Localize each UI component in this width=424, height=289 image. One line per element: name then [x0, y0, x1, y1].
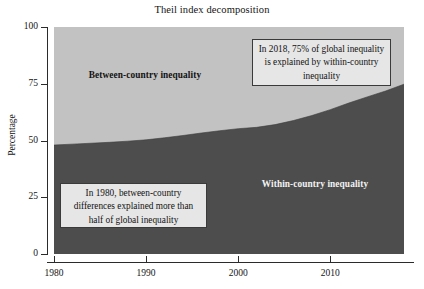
y-tick-mark	[41, 197, 48, 198]
x-tick-label: 2010	[300, 268, 360, 278]
y-tick-label: 100	[0, 21, 38, 31]
chart-title: Theil index decomposition	[0, 4, 424, 15]
x-tick-label: 1980	[24, 268, 84, 278]
y-tick-label: 50	[0, 135, 38, 145]
annotation-1980: In 1980, between-country differences exp…	[60, 183, 207, 228]
x-tick-label: 2000	[208, 268, 268, 278]
y-tick-label: 75	[0, 78, 38, 88]
y-tick-mark	[41, 141, 48, 142]
between-country-area-label: Between-country inequality	[88, 69, 202, 81]
chart-container: Theil index decomposition Percentage 025…	[0, 0, 424, 289]
y-tick-label: 0	[0, 248, 38, 258]
y-tick-mark	[41, 27, 48, 28]
within-country-area-label: Within-country inequality	[252, 178, 378, 190]
y-tick-mark	[41, 84, 48, 85]
x-tick-mark	[146, 256, 147, 263]
annotation-2018: In 2018, 75% of global inequality is exp…	[252, 39, 391, 86]
x-tick-mark	[238, 256, 239, 263]
x-tick-mark	[54, 256, 55, 263]
x-axis-line	[47, 262, 414, 263]
y-tick-mark	[41, 254, 48, 255]
x-tick-label: 1990	[116, 268, 176, 278]
y-tick-label: 25	[0, 191, 38, 201]
x-tick-mark	[330, 256, 331, 263]
